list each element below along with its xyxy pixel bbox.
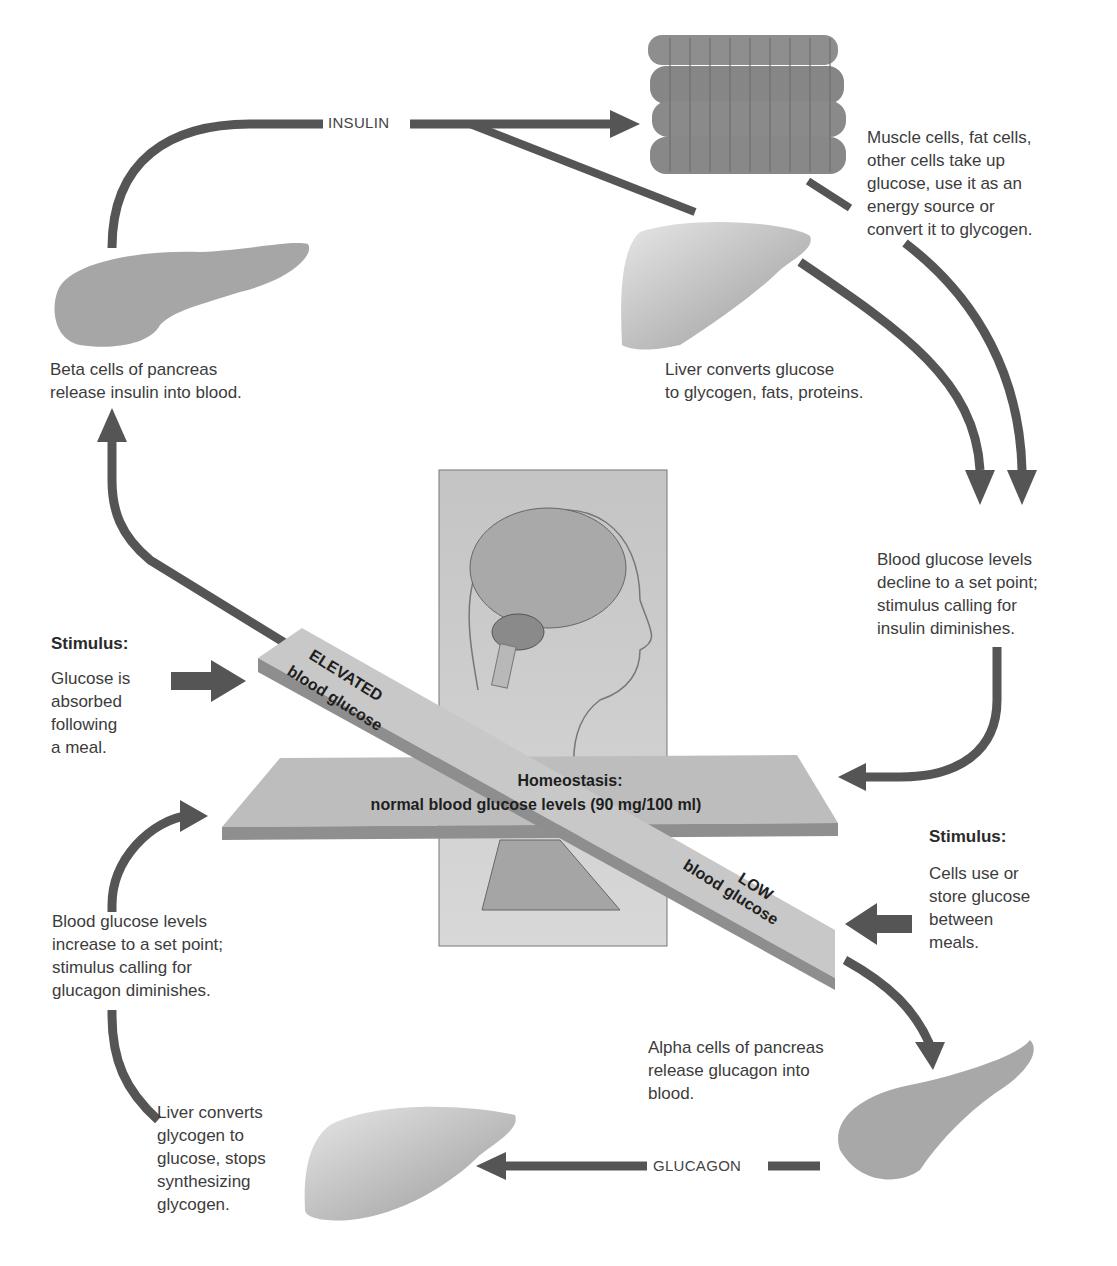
glucagon-arrow (476, 1152, 820, 1180)
pancreas-icon (54, 243, 309, 347)
glucagon-flow-label: GLUCAGON (649, 1157, 745, 1174)
stimulus-high-arrow (171, 660, 246, 702)
decline-to-homeostasis-arrow (838, 647, 997, 791)
liver-glycogen-label: Liver converts glucose to glycogen, fats… (665, 358, 863, 404)
beta-cells-label: Beta cells of pancreas release insulin i… (50, 358, 242, 404)
decline-label: Blood glucose levels decline to a set po… (877, 548, 1038, 640)
stimulus-low-title: Stimulus: (929, 827, 1006, 847)
signal-to-beta-arrow (97, 408, 285, 643)
homeostasis-title: Homeostasis: (518, 772, 623, 789)
muscle-cells-label: Muscle cells, fat cells, other cells tak… (867, 126, 1032, 241)
liver-icon (621, 222, 811, 350)
stimulus-low-arrow (845, 903, 912, 945)
homeostasis-detail: normal blood glucose levels (90 mg/100 m… (371, 796, 702, 813)
insulin-arrow (112, 110, 695, 248)
low-to-alpha-arrow (845, 960, 945, 1070)
stimulus-low-text: Cells use or store glucose between meals… (929, 862, 1030, 954)
liver-glucose-label: Liver converts glycogen to glucose, stop… (157, 1101, 266, 1216)
insulin-flow-label: INSULIN (324, 114, 393, 131)
stimulus-high-text: Glucose is absorbed following a meal. (51, 667, 130, 759)
alpha-cells-label: Alpha cells of pancreas release glucagon… (648, 1036, 824, 1105)
stimulus-high-title: Stimulus: (51, 634, 128, 654)
increase-label: Blood glucose levels increase to a set p… (52, 910, 223, 1002)
muscle-fibers-icon (648, 35, 846, 174)
